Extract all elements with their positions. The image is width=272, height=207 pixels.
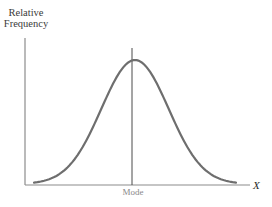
x-axis-label: X	[253, 179, 260, 191]
chart-plot	[0, 0, 272, 207]
mode-label: Mode	[116, 187, 150, 197]
distribution-curve	[34, 60, 236, 183]
